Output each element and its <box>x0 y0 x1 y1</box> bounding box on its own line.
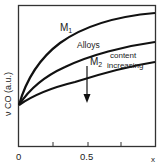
label-alloys: Alloys <box>77 40 100 50</box>
x-axis-ticks <box>53 142 121 146</box>
x-tick-label-0: 0 <box>16 151 21 162</box>
label-content: content <box>110 51 137 60</box>
x-tick-label-0-5: 0.5 <box>80 151 93 162</box>
y-axis-label: ν CO (a.u.) <box>3 72 13 116</box>
label-increasing: increasing <box>107 61 143 70</box>
chart: M1 Alloys content increasing M2 0 0.5 x … <box>0 0 160 167</box>
label-m1: M1 <box>60 22 72 34</box>
label-m2: M2 <box>90 56 102 68</box>
x-axis-label: x <box>151 155 155 164</box>
content-increasing-arrow <box>84 66 91 103</box>
